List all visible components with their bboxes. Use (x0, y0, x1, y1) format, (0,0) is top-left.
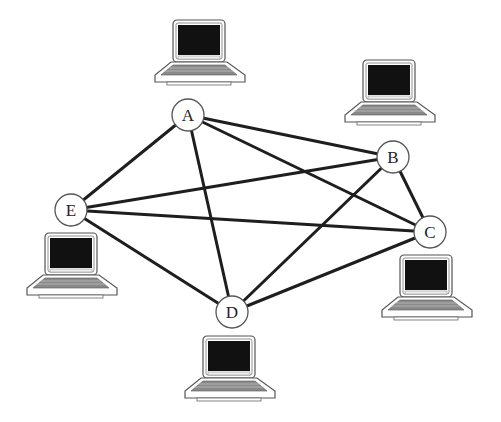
network-diagram: ABCDE (0, 0, 501, 422)
laptop-icon-b (345, 60, 435, 125)
node-a: A (172, 99, 204, 131)
edge-c-e (71, 210, 430, 232)
laptop-icon-d (185, 336, 275, 401)
laptop-icon-c (382, 255, 472, 320)
laptop-icon-e (27, 233, 117, 298)
node-d: D (216, 296, 248, 328)
edge-a-d (188, 115, 232, 312)
node-label: A (182, 106, 195, 125)
node-e: E (55, 194, 87, 226)
node-label: E (66, 201, 76, 220)
edges-layer (71, 115, 430, 312)
edge-a-e (71, 115, 188, 210)
node-b: B (377, 141, 409, 173)
node-label: D (226, 303, 238, 322)
node-label: C (424, 223, 435, 242)
node-c: C (414, 216, 446, 248)
node-label: B (387, 148, 398, 167)
laptop-icon-a (155, 20, 245, 85)
